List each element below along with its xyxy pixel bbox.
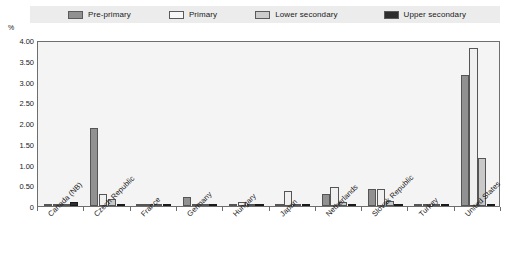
- y-axis-unit: %: [8, 24, 14, 31]
- legend-swatch-upper-secondary: [384, 11, 399, 19]
- y-axis-tick-label: 1.00: [4, 161, 34, 170]
- x-axis-tick-mark: [315, 207, 316, 211]
- legend-item-pre-primary: Pre-primary: [68, 6, 131, 23]
- legend-label-pre-primary: Pre-primary: [88, 10, 131, 19]
- bar: [70, 202, 78, 206]
- bar: [302, 204, 310, 206]
- y-axis-tick-label: 2.00: [4, 120, 34, 129]
- legend-item-primary: Primary: [169, 6, 217, 23]
- x-axis-tick-mark: [269, 207, 270, 211]
- bar: [414, 204, 422, 206]
- bar: [90, 128, 98, 206]
- x-axis-tick-mark: [454, 207, 455, 211]
- bar: [394, 204, 402, 206]
- bars-layer: [38, 42, 499, 206]
- bar: [322, 194, 330, 206]
- x-axis-tick-mark: [500, 207, 501, 211]
- legend-item-upper-secondary: Upper secondary: [384, 6, 466, 23]
- bar: [461, 75, 469, 206]
- y-axis-tick-label: 1.50: [4, 140, 34, 149]
- legend-label-lower-secondary: Lower secondary: [275, 10, 337, 19]
- bar: [117, 204, 125, 206]
- x-axis-tick-mark: [361, 207, 362, 211]
- legend-swatch-primary: [169, 11, 184, 19]
- bar: [469, 48, 477, 206]
- x-axis-tick-mark: [407, 207, 408, 211]
- legend-item-lower-secondary: Lower secondary: [255, 6, 337, 23]
- legend-swatch-pre-primary: [68, 11, 83, 19]
- bar: [209, 204, 217, 206]
- bar: [348, 204, 356, 206]
- legend-label-upper-secondary: Upper secondary: [404, 10, 466, 19]
- bar: [487, 204, 495, 206]
- bar: [255, 204, 263, 206]
- legend-swatch-lower-secondary: [255, 11, 270, 19]
- bar: [183, 197, 191, 206]
- x-axis-tick-mark: [37, 207, 38, 211]
- y-axis-tick-label: 0: [4, 203, 34, 212]
- chart-legend: Pre-primary Primary Lower secondary Uppe…: [30, 6, 500, 23]
- legend-label-primary: Primary: [189, 10, 217, 19]
- bar: [275, 204, 283, 206]
- x-axis-tick-mark: [176, 207, 177, 211]
- y-axis-tick-label: 4.00: [4, 37, 34, 46]
- y-axis-tick-label: 0.50: [4, 182, 34, 191]
- x-axis-tick-mark: [83, 207, 84, 211]
- y-axis-tick-label: 2.50: [4, 99, 34, 108]
- y-axis-tick-label: 3.50: [4, 57, 34, 66]
- bar: [163, 204, 171, 206]
- bar: [441, 204, 449, 206]
- chart-container: Pre-primary Primary Lower secondary Uppe…: [0, 0, 512, 262]
- bar: [368, 189, 376, 206]
- plot-area: [37, 41, 500, 207]
- y-axis-tick-label: 3.00: [4, 78, 34, 87]
- x-axis-tick-mark: [222, 207, 223, 211]
- x-axis-tick-mark: [130, 207, 131, 211]
